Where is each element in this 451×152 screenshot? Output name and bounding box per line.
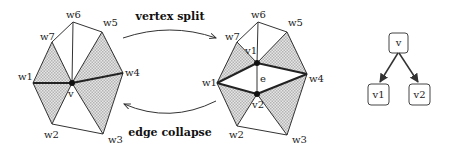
label-w3: w3 bbox=[292, 134, 307, 145]
label-w6: w6 bbox=[66, 9, 81, 20]
node-v2-label: v2 bbox=[412, 89, 425, 100]
label-v1: v1 bbox=[244, 45, 257, 56]
label-w3: w3 bbox=[108, 134, 123, 145]
label-w4: w4 bbox=[309, 73, 324, 84]
left-face-w1-w2 bbox=[33, 83, 72, 124]
vertex-v2 bbox=[254, 91, 260, 97]
label-w5: w5 bbox=[288, 17, 303, 28]
label-w5: w5 bbox=[103, 17, 118, 28]
edge-collapse-arrow-icon bbox=[124, 101, 216, 113]
edge-v-v2 bbox=[399, 53, 418, 82]
right-mesh: w6 w5 w7 v1 e w1 w4 v2 w2 w3 bbox=[202, 9, 324, 145]
left-mesh: w6 w5 w7 w1 w4 v w2 w3 bbox=[18, 9, 140, 145]
label-v2: v2 bbox=[251, 99, 264, 110]
label-w1: w1 bbox=[18, 71, 33, 82]
vertex-split-arrow-icon bbox=[123, 30, 216, 38]
vertex-v1 bbox=[254, 60, 260, 66]
edge-collapse-label: edge collapse bbox=[128, 126, 212, 139]
label-w6: w6 bbox=[251, 9, 266, 20]
label-w2: w2 bbox=[229, 129, 244, 140]
node-v-label: v bbox=[395, 37, 402, 48]
label-w1: w1 bbox=[202, 77, 217, 88]
node-v1-label: v1 bbox=[371, 89, 384, 100]
label-w4: w4 bbox=[125, 67, 140, 78]
label-w2: w2 bbox=[44, 129, 59, 140]
vertex-v bbox=[69, 80, 75, 86]
vertex-split-label: vertex split bbox=[135, 10, 206, 23]
label-w7: w7 bbox=[225, 31, 240, 42]
label-w7: w7 bbox=[40, 31, 55, 42]
label-e: e bbox=[260, 73, 266, 84]
edge-v-v1 bbox=[380, 53, 398, 82]
left-face-w7-w1 bbox=[33, 42, 72, 83]
diagram-canvas: w6 w5 w7 w1 w4 v w2 w3 vertex split edge… bbox=[0, 0, 451, 152]
vertex-hierarchy-tree: v v1 v2 bbox=[368, 33, 430, 105]
label-v: v bbox=[67, 88, 74, 99]
